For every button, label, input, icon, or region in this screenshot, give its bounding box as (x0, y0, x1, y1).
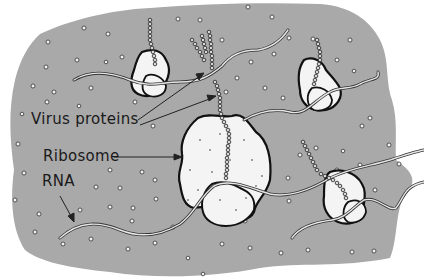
diagram-canvas: Virus proteins Ribosome RNA (0, 0, 424, 280)
label-ribosome: Ribosome (43, 147, 120, 165)
label-virus-proteins: Virus proteins (31, 110, 139, 128)
label-rna: RNA (42, 172, 75, 190)
